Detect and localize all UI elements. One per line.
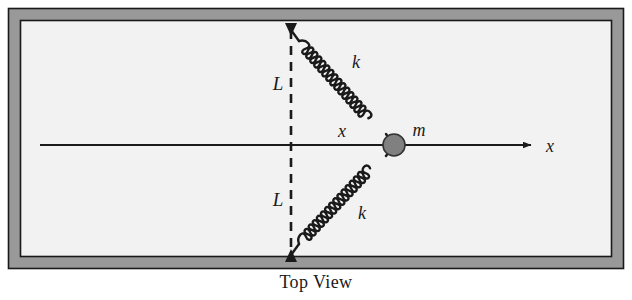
label-length-bottom: L [272, 189, 284, 210]
label-length-top: L [272, 73, 284, 94]
figure-caption: Top View [0, 272, 632, 293]
label-spring-constant-bottom: k [358, 203, 367, 223]
mass-marker [383, 134, 405, 156]
label-mass: m [413, 120, 426, 140]
label-displacement: x [337, 121, 346, 141]
label-x-axis: x [545, 136, 554, 156]
label-spring-constant-top: k [352, 52, 361, 72]
mass-spring-diagram: L L k k m x x [0, 0, 632, 300]
figure-root: L L k k m x x Top View [0, 0, 632, 300]
